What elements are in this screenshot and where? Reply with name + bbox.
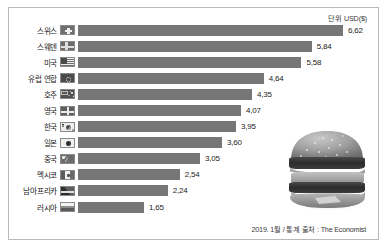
bar bbox=[78, 202, 144, 213]
bar bbox=[78, 89, 252, 100]
bar bbox=[78, 169, 180, 180]
bar-value-label: 4,35 bbox=[257, 90, 272, 99]
bar-value-label: 5,58 bbox=[306, 58, 321, 67]
bar-value-label: 6,62 bbox=[348, 26, 363, 35]
flag-icon-au bbox=[60, 89, 75, 99]
bar-value-label: 3,05 bbox=[205, 154, 220, 163]
country-label: 호주 bbox=[9, 89, 60, 100]
bar-row: 유럽 연합4,64 bbox=[9, 70, 380, 86]
country-label: 멕시코 bbox=[9, 169, 60, 180]
bar-row: 미국5,58 bbox=[9, 54, 380, 70]
country-label: 한국 bbox=[9, 121, 60, 132]
bar-track: 5,84 bbox=[78, 41, 380, 52]
chart-frame: 단위 USD($) 스위스6,62스웨덴5,84미국5,58유럽 연합4,64호… bbox=[8, 7, 379, 240]
bar-row: 호주4,35 bbox=[9, 86, 380, 102]
bar-row: 스웨덴5,84 bbox=[9, 38, 380, 54]
bar-value-label: 1,65 bbox=[149, 203, 164, 212]
flag-icon-cn bbox=[60, 154, 75, 164]
bar-track: 4,07 bbox=[78, 105, 380, 116]
bar bbox=[78, 105, 241, 116]
country-label: 유럽 연합 bbox=[9, 73, 60, 84]
bar-row: 영국4,07 bbox=[9, 102, 380, 118]
bar-value-label: 4,64 bbox=[269, 74, 284, 83]
bar-track: 4,64 bbox=[78, 73, 380, 84]
bar-value-label: 5,84 bbox=[317, 42, 332, 51]
bar bbox=[78, 73, 264, 84]
country-label: 영국 bbox=[9, 105, 60, 116]
country-label: 스웨덴 bbox=[9, 41, 60, 52]
bar bbox=[78, 57, 301, 68]
country-label: 일본 bbox=[9, 137, 60, 148]
flag-icon-se bbox=[60, 41, 75, 51]
bar-track: 4,35 bbox=[78, 89, 380, 100]
flag-icon-jp bbox=[60, 138, 75, 148]
flag-icon-kr bbox=[60, 122, 75, 132]
flag-icon-gb bbox=[60, 106, 75, 116]
bar bbox=[78, 153, 200, 164]
bar-track: 6,62 bbox=[78, 25, 380, 36]
bar bbox=[78, 121, 236, 132]
flag-icon-ch bbox=[60, 25, 75, 35]
big-mac-photo bbox=[285, 128, 371, 211]
flag-icon-ru bbox=[60, 202, 75, 212]
country-label: 스위스 bbox=[9, 25, 60, 36]
flag-icon-za bbox=[60, 186, 75, 196]
bar bbox=[78, 137, 222, 148]
bar-value-label: 2,24 bbox=[173, 186, 188, 195]
country-label: 미국 bbox=[9, 57, 60, 68]
bar-value-label: 4,07 bbox=[246, 106, 261, 115]
country-label: 남아프리카 bbox=[9, 185, 60, 196]
flag-icon-eu bbox=[60, 73, 75, 83]
country-label: 중국 bbox=[9, 153, 60, 164]
bar bbox=[78, 41, 312, 52]
bar-track: 5,58 bbox=[78, 57, 380, 68]
bar bbox=[78, 25, 343, 36]
source-note: 2019. 1월 / 통계 출처 : The Economist bbox=[252, 224, 367, 234]
bar-row: 스위스6,62 bbox=[9, 22, 380, 38]
bar-value-label: 2,54 bbox=[185, 170, 200, 179]
bar-value-label: 3,60 bbox=[227, 138, 242, 147]
bar bbox=[78, 185, 168, 196]
flag-icon-us bbox=[60, 57, 75, 67]
country-label: 러시아 bbox=[9, 202, 60, 213]
flag-icon-mx bbox=[60, 170, 75, 180]
bar-value-label: 3,95 bbox=[241, 122, 256, 131]
